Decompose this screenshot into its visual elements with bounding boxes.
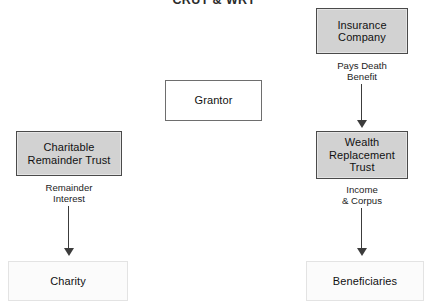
- connector-pays-death-benefit-line: [361, 84, 362, 122]
- node-insurance-company[interactable]: Insurance Company: [316, 8, 408, 54]
- connector-income-and-corpus-line: [361, 208, 362, 250]
- node-charity[interactable]: Charity: [8, 261, 128, 301]
- node-beneficiaries[interactable]: Beneficiaries: [306, 261, 424, 301]
- diagram-title: CRUT & WRT: [0, 0, 428, 7]
- connector-income-and-corpus-arrowhead: [357, 248, 367, 256]
- node-charity-label: Charity: [50, 275, 86, 288]
- node-grantor-label: Grantor: [195, 94, 233, 107]
- connector-pays-death-benefit-arrowhead: [357, 120, 367, 128]
- connector-pays-death-benefit-label: Pays Death Benefit: [312, 60, 412, 82]
- node-wealth-replacement-trust[interactable]: Wealth Replacement Trust: [316, 131, 408, 179]
- node-grantor[interactable]: Grantor: [165, 80, 262, 121]
- node-beneficiaries-label: Beneficiaries: [333, 275, 397, 288]
- node-charitable-remainder-trust[interactable]: Charitable Remainder Trust: [16, 131, 122, 176]
- connector-remainder-interest-arrowhead: [64, 248, 74, 256]
- connector-remainder-interest-line: [68, 206, 69, 250]
- connector-remainder-interest-label: Remainder Interest: [19, 182, 119, 204]
- node-insurance-company-label: Insurance Company: [337, 19, 386, 44]
- node-charitable-remainder-trust-label: Charitable Remainder Trust: [28, 141, 111, 166]
- connector-income-and-corpus-label: Income & Corpus: [312, 184, 412, 206]
- diagram-canvas: CRUT & WRT Insurance Company Pays Death …: [0, 0, 428, 308]
- node-wealth-replacement-trust-label: Wealth Replacement Trust: [329, 136, 395, 174]
